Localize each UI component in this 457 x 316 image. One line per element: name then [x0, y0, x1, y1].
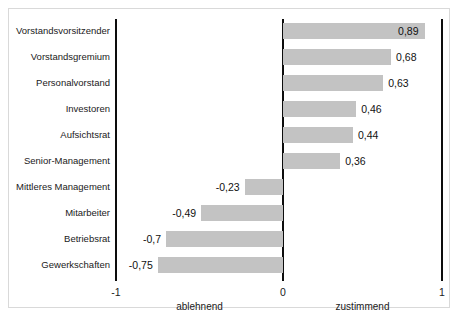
chart-frame: -101ablehnendzustimmendVorstandsvorsitze… — [8, 8, 450, 308]
category-label-9: Betriebsrat — [0, 234, 110, 244]
value-label-5: 0,44 — [358, 130, 378, 141]
category-label-4: Investoren — [0, 104, 110, 114]
value-label-10: -0,75 — [119, 260, 153, 271]
value-label-1: 0,89 — [385, 26, 419, 37]
bar-3 — [283, 75, 383, 91]
axis-line-neg1 — [115, 19, 117, 281]
bar-8 — [201, 205, 283, 221]
value-label-9: -0,7 — [127, 234, 161, 245]
bar-9 — [166, 231, 283, 247]
category-label-5: Aufsichtsrat — [0, 130, 110, 140]
value-label-8: -0,49 — [162, 208, 196, 219]
bar-2 — [283, 49, 391, 65]
value-label-3: 0,63 — [388, 78, 408, 89]
bar-10 — [158, 257, 283, 273]
category-label-7: Mittleres Management — [0, 182, 110, 192]
category-label-6: Senior-Management — [0, 156, 110, 166]
category-label-2: Vorstandsgremium — [0, 52, 110, 62]
category-label-3: Personalvorstand — [0, 78, 110, 88]
value-label-7: -0,23 — [206, 182, 240, 193]
bar-4 — [283, 101, 356, 117]
bar-5 — [283, 127, 353, 143]
bar-6 — [283, 153, 340, 169]
value-label-2: 0,68 — [396, 52, 416, 63]
value-label-6: 0,36 — [345, 156, 365, 167]
axis-caption-ablehnend: ablehnend — [150, 301, 250, 312]
x-tick-label-1: 1 — [427, 287, 457, 298]
x-tick-label-neg1: -1 — [101, 287, 131, 298]
bar-7 — [245, 179, 283, 195]
category-label-8: Mitarbeiter — [0, 208, 110, 218]
chart-plot-area: -101ablehnendzustimmendVorstandsvorsitze… — [9, 9, 451, 309]
x-tick-label-0: 0 — [268, 287, 298, 298]
category-label-10: Gewerkschaften — [0, 260, 110, 270]
axis-line-1 — [441, 19, 443, 281]
value-label-4: 0,46 — [361, 104, 381, 115]
category-label-1: Vorstandsvorsitzender — [0, 26, 110, 36]
axis-caption-zustimmend: zustimmend — [313, 301, 413, 312]
